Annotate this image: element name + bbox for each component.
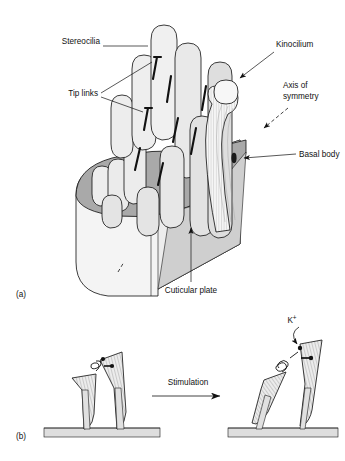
diagram-canvas: Stereocilia Tip links Kinocilium Axis of… [0, 0, 345, 461]
stereocilium-6 [151, 25, 177, 140]
stereocilium-12 [137, 187, 159, 236]
label-kinocilium: Kinocilium [276, 40, 313, 49]
kinocilium-tip [214, 80, 238, 104]
stereocilium-11 [102, 195, 122, 228]
stereocilium-8 [160, 146, 184, 228]
figure-container: Stereocilia Tip links Kinocilium Axis of… [0, 0, 345, 461]
channel-dot-stimulated-1 [298, 346, 302, 350]
label-axis-of-symmetry-line2: symmetry [283, 92, 319, 101]
plate-stimulated [228, 428, 338, 437]
label-cuticular-plate: Cuticular plate [165, 286, 218, 295]
label-axis-of-symmetry-line1: Axis of [283, 81, 308, 90]
label-stimulation: Stimulation [168, 378, 209, 387]
panel-label-a: (a) [16, 290, 26, 299]
channel-dot-resting-1 [101, 357, 105, 361]
label-stereocilia: Stereocilia [62, 37, 101, 46]
panel-label-b: (b) [16, 432, 26, 441]
basal-body-oval [231, 153, 236, 163]
plate-resting [44, 428, 160, 437]
label-basal-body: Basal body [299, 150, 340, 159]
label-tip-links: Tip links [68, 89, 98, 98]
